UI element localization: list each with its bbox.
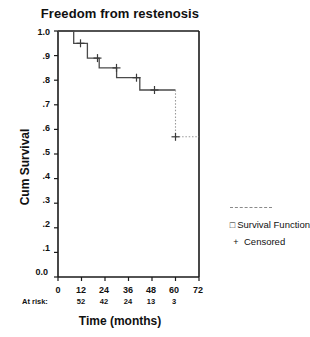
censored-tail-dotted xyxy=(176,90,200,137)
legend-item-dashed xyxy=(228,199,310,216)
survival-chart-figure: Freedom from restenosis Cum Survival Tim… xyxy=(0,0,310,337)
chart-legend: □ Survival Function + Censored xyxy=(228,199,310,250)
legend-item-survival-function: □ Survival Function xyxy=(228,216,310,233)
survival-step-curve xyxy=(58,31,176,90)
plot-area xyxy=(0,0,310,337)
dashed-line-icon xyxy=(230,207,272,208)
plus-marker-icon: + xyxy=(228,237,244,247)
legend-item-censored: + Censored xyxy=(228,233,310,250)
square-marker-icon: □ xyxy=(228,220,237,230)
legend-label-censored: Censored xyxy=(244,236,285,247)
legend-label-survival-function: Survival Function xyxy=(237,219,310,230)
axes-frame xyxy=(58,31,199,277)
